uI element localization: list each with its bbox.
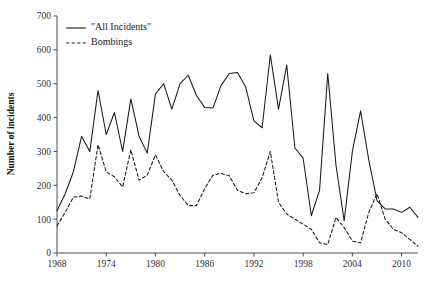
y-tick-label: 300 bbox=[37, 147, 52, 157]
y-tick-label: 500 bbox=[37, 79, 52, 89]
x-tick-label: 1992 bbox=[244, 259, 263, 269]
y-axis-title: Number of incidents bbox=[6, 92, 16, 175]
y-tick-label: 700 bbox=[37, 11, 52, 21]
series-group bbox=[57, 55, 418, 246]
x-tick-marks bbox=[57, 253, 402, 257]
x-tick-labels: 19681974198019861992199820042010 bbox=[48, 259, 412, 269]
y-axis-group: 0100200300400500600700 bbox=[37, 11, 57, 258]
x-tick-label: 1998 bbox=[294, 259, 313, 269]
series-bombings bbox=[57, 145, 418, 247]
y-tick-marks bbox=[54, 16, 58, 253]
x-tick-label: 2010 bbox=[392, 259, 411, 269]
legend-label: "All Incidents" bbox=[91, 21, 151, 32]
x-axis-group: 19681974198019861992199820042010 bbox=[48, 253, 419, 269]
line-chart: 0100200300400500600700 19681974198019861… bbox=[0, 0, 426, 288]
y-tick-label: 100 bbox=[37, 215, 52, 225]
x-tick-label: 1986 bbox=[195, 259, 214, 269]
x-tick-label: 1974 bbox=[97, 259, 116, 269]
x-tick-label: 1968 bbox=[48, 259, 67, 269]
series-all-incidents bbox=[57, 55, 418, 221]
x-tick-label: 2004 bbox=[343, 259, 362, 269]
y-tick-label: 600 bbox=[37, 45, 52, 55]
y-tick-label: 400 bbox=[37, 113, 52, 123]
y-tick-label: 200 bbox=[37, 181, 52, 191]
chart-legend: "All Incidents"Bombings bbox=[66, 21, 151, 47]
chart-container: 0100200300400500600700 19681974198019861… bbox=[0, 0, 426, 288]
y-tick-labels: 0100200300400500600700 bbox=[37, 11, 52, 258]
x-tick-label: 1980 bbox=[146, 259, 165, 269]
legend-label: Bombings bbox=[91, 36, 132, 47]
y-tick-label: 0 bbox=[46, 248, 51, 258]
